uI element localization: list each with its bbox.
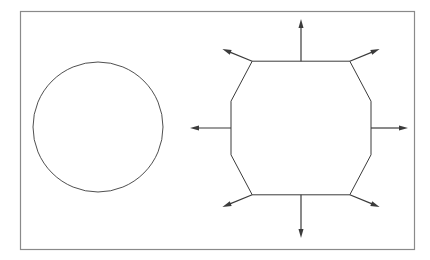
canvas-background [0, 0, 430, 260]
figure-canvas [0, 0, 430, 260]
